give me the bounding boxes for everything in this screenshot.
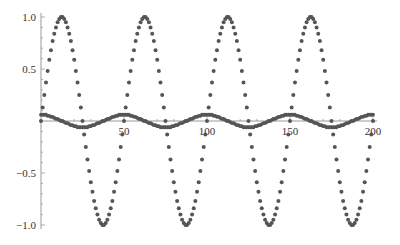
data-point — [64, 20, 68, 24]
data-point — [49, 48, 53, 52]
data-point — [195, 190, 199, 194]
data-point — [72, 58, 76, 62]
data-point — [168, 157, 172, 161]
data-point — [283, 157, 287, 161]
data-point — [253, 169, 257, 173]
data-point — [339, 190, 343, 194]
data-point — [330, 119, 334, 123]
data-point — [364, 169, 368, 173]
data-point — [240, 69, 244, 73]
data-point — [107, 213, 111, 217]
data-point — [124, 105, 128, 109]
data-point — [200, 157, 204, 161]
data-point — [247, 119, 251, 123]
data-point — [162, 105, 166, 109]
data-point — [315, 25, 319, 29]
data-point — [149, 25, 153, 29]
data-point — [359, 199, 363, 203]
data-point — [44, 81, 48, 85]
data-point — [220, 25, 224, 29]
data-point — [232, 25, 236, 29]
data-point — [320, 48, 324, 52]
data-point — [155, 58, 159, 62]
data-point — [326, 93, 330, 97]
data-point — [92, 199, 96, 203]
data-point — [87, 169, 91, 173]
data-point — [172, 180, 176, 184]
data-point — [248, 133, 252, 137]
data-point — [333, 145, 337, 149]
data-point — [361, 190, 365, 194]
data-point — [114, 180, 118, 184]
data-point — [71, 48, 75, 52]
y-tick-label: 0.5 — [22, 63, 36, 75]
data-point — [178, 213, 182, 217]
data-point — [296, 58, 300, 62]
data-point — [170, 169, 174, 173]
data-point — [193, 199, 197, 203]
data-point — [129, 69, 133, 73]
data-point — [328, 105, 332, 109]
data-point — [119, 145, 123, 149]
data-point — [192, 206, 196, 210]
data-point — [250, 145, 254, 149]
data-point — [85, 157, 89, 161]
data-point — [276, 199, 280, 203]
data-point — [79, 105, 83, 109]
data-point — [137, 25, 141, 29]
y-tick-label: −1.0 — [16, 219, 36, 231]
data-point — [89, 180, 93, 184]
data-point — [41, 105, 45, 109]
data-point — [130, 58, 134, 62]
data-point — [218, 32, 222, 36]
data-point — [52, 32, 56, 36]
data-point — [217, 39, 221, 43]
data-point — [371, 113, 375, 117]
data-point — [243, 93, 247, 97]
data-point — [207, 105, 211, 109]
data-point — [173, 190, 177, 194]
data-point — [256, 190, 260, 194]
data-point — [175, 199, 179, 203]
data-point — [323, 69, 327, 73]
data-point — [67, 32, 71, 36]
data-point — [295, 69, 299, 73]
data-point — [177, 206, 181, 210]
data-point — [354, 218, 358, 222]
data-point — [66, 25, 70, 29]
data-point — [331, 133, 335, 137]
data-point — [82, 133, 86, 137]
data-point — [160, 93, 164, 97]
data-point — [188, 218, 192, 222]
data-point — [369, 133, 373, 137]
data-point — [251, 157, 255, 161]
x-tick-label: 100 — [199, 125, 216, 137]
data-point — [202, 145, 206, 149]
data-point — [334, 157, 338, 161]
data-point — [336, 169, 340, 173]
data-point — [303, 25, 307, 29]
data-point — [233, 32, 237, 36]
data-point — [290, 105, 294, 109]
data-point — [77, 93, 81, 97]
data-point — [215, 48, 219, 52]
data-point — [358, 206, 362, 210]
y-tick-label: −0.5 — [16, 167, 36, 179]
data-point — [298, 48, 302, 52]
data-point — [343, 206, 347, 210]
data-point — [371, 119, 375, 123]
data-point — [368, 145, 372, 149]
data-point — [190, 213, 194, 217]
data-point — [242, 81, 246, 85]
scatter-plot: 50100150200 1.00.5−0.5−1.0 — [0, 0, 400, 245]
data-point — [281, 169, 285, 173]
data-point — [230, 20, 234, 24]
data-point — [42, 93, 46, 97]
data-point — [325, 81, 329, 85]
data-point — [245, 105, 249, 109]
data-point — [238, 58, 242, 62]
data-point — [288, 119, 292, 123]
data-point — [344, 213, 348, 217]
data-point — [159, 81, 163, 85]
data-point — [74, 69, 78, 73]
